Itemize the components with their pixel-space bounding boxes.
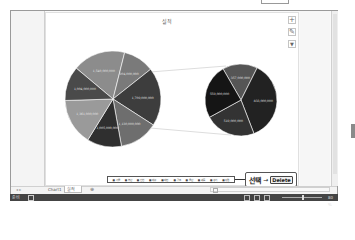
select-label: 선택	[249, 175, 261, 185]
data-label: 519,000,000	[224, 119, 243, 123]
data-label: 1,130,000,000	[119, 122, 141, 126]
zoom-slider[interactable]	[282, 197, 322, 198]
horizontal-scroll-thumb[interactable]	[213, 188, 218, 193]
sheet-tab-chart1[interactable]: Chart1	[46, 186, 64, 193]
data-label: 1,005,000,000	[96, 126, 118, 130]
zoom-level[interactable]: 80 %	[328, 194, 338, 208]
data-label: 1,004,000,000	[74, 87, 96, 91]
horizontal-scrollbar[interactable]	[210, 187, 330, 192]
page-break-view-icon[interactable]	[264, 195, 270, 201]
sheet-tab-performance[interactable]: 실적	[64, 186, 82, 193]
legend-item: ■ 부산	[125, 178, 132, 182]
secondary-pie[interactable]: 357,000,000833,000,000519,000,000559,000…	[205, 64, 277, 136]
legend-item: ■ 세종	[198, 178, 205, 182]
instruction-callout: 선택 → Delete	[245, 172, 297, 187]
chart-legend[interactable]: ■ 서울 ■ 부산 ■ 인천 ■ 대구 ■ 대전 ■ 광주 ■ 울산 ■ 세종 …	[107, 176, 235, 183]
macro-record-icon[interactable]	[28, 195, 34, 201]
legend-item: ■ 경기	[210, 178, 217, 182]
primary-pie[interactable]: 1,540,000,000904,000,0001,709,000,0001,1…	[65, 51, 161, 147]
status-ready: 준비	[12, 194, 20, 201]
legend-item: ■ 광주	[173, 178, 180, 182]
legend-item: ■ 대구	[149, 178, 156, 182]
data-label: 1,709,000,000	[132, 96, 154, 100]
data-label: 559,000,000	[210, 92, 229, 96]
normal-view-icon[interactable]	[244, 195, 250, 201]
legend-item: ■ 서울	[112, 178, 119, 182]
arrow-icon: →	[263, 176, 268, 183]
page-edge-marker	[351, 124, 355, 138]
sheet-nav-arrows[interactable]: ◂ ▸	[16, 186, 21, 193]
add-sheet-icon[interactable]: ⊕	[90, 186, 94, 193]
legend-item: ■ 강원	[222, 178, 229, 182]
data-label: 1,361,000,000	[76, 112, 98, 116]
data-label: 904,000,000	[120, 72, 139, 76]
delete-key-label: Delete	[270, 176, 292, 184]
page-layout-view-icon[interactable]	[254, 195, 260, 201]
data-label: 833,000,000	[254, 99, 273, 103]
zoom-slider-knob[interactable]	[302, 195, 304, 200]
legend-item: ■ 울산	[186, 178, 193, 182]
data-label: 357,000,000	[231, 76, 250, 80]
legend-item: ■ 대전	[161, 178, 168, 182]
status-bar: 준비 80 %	[10, 194, 338, 201]
callout-leader-line	[235, 179, 245, 180]
data-label: 1,540,000,000	[93, 69, 115, 73]
legend-item: ■ 인천	[137, 178, 144, 182]
